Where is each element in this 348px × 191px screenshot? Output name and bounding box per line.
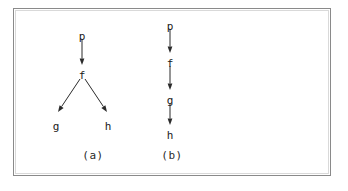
arrow-shaft <box>85 79 103 107</box>
node-label-p: p <box>75 31 89 42</box>
panel-caption-panel-a: (a) <box>73 150 113 162</box>
arrow-f-to-g <box>58 79 80 112</box>
arrow-head-icon <box>168 84 173 91</box>
arrow-head-icon <box>80 59 85 66</box>
arrow-f-to-h <box>85 79 107 112</box>
arrow-head-icon <box>168 119 173 126</box>
node-label-f: f <box>163 58 177 69</box>
node-label-f: f <box>75 70 89 81</box>
node-label-g: g <box>163 95 177 106</box>
arrow-head-icon <box>58 105 64 112</box>
arrow-head-icon <box>101 105 107 112</box>
arrow-shaft <box>62 79 80 107</box>
arrow-head-icon <box>168 47 173 54</box>
figure-root: pfgh(a)pfgh(b) <box>0 0 348 191</box>
node-label-h: h <box>163 130 177 141</box>
node-label-g: g <box>49 121 63 132</box>
node-label-h: h <box>101 121 115 132</box>
node-label-p: p <box>163 21 177 32</box>
panel-caption-panel-b: (b) <box>152 150 192 162</box>
